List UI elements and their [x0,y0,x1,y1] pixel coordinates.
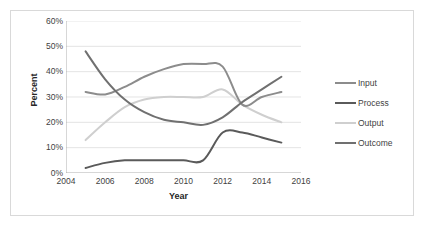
series-line-process [86,130,282,168]
chart-inner: Percent 0%10%20%30%40%50%60% 20042006200… [11,11,413,215]
legend-swatch-icon [335,102,356,104]
y-tick-label: 10% [23,143,63,152]
legend-label: Input [358,78,377,88]
x-tick-label: 2010 [164,176,204,186]
legend-label: Process [358,98,389,108]
y-tick-label: 40% [23,67,63,76]
legend-swatch-icon [335,122,356,124]
x-axis-title: Year [56,191,301,201]
y-tick-label: 30% [23,93,63,102]
y-tick-label: 50% [23,42,63,51]
legend-swatch-icon [335,142,356,144]
x-tick-label: 2004 [46,176,86,186]
x-tick-label: 2016 [281,176,321,186]
x-tick-label: 2012 [203,176,243,186]
x-tick-label: 2014 [242,176,282,186]
series-line-input [86,63,282,106]
plot-area [66,21,301,173]
y-tick-label: 60% [23,17,63,26]
chart-container: Percent 0%10%20%30%40%50%60% 20042006200… [10,10,414,216]
plot-svg [66,21,301,173]
legend-item: Outcome [335,133,413,153]
legend-swatch-icon [335,82,356,84]
x-tick-label: 2008 [124,176,164,186]
y-axis-tick-labels: 0%10%20%30%40%50%60% [19,11,63,181]
x-tick-label: 2006 [85,176,125,186]
chart-legend: InputProcessOutputOutcome [335,73,413,153]
legend-item: Process [335,93,413,113]
x-axis-tick-labels: 2004200620082010201220142016 [11,176,351,190]
y-tick-label: 20% [23,118,63,127]
legend-item: Input [335,73,413,93]
legend-label: Outcome [358,138,393,148]
legend-label: Output [358,118,384,128]
legend-item: Output [335,113,413,133]
